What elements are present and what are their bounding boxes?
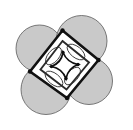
center-dot-right-icon — [76, 63, 79, 66]
geometric-figure-svg — [0, 0, 133, 130]
figure-canvas — [0, 0, 133, 130]
dot-right-vertex — [96, 58, 100, 62]
center-dot-bottom-icon — [64, 77, 67, 80]
dot-top-vertex — [60, 28, 64, 32]
dot-left-vertex — [28, 69, 32, 73]
center-dot-top-icon — [61, 51, 64, 54]
center-dot-left-icon — [50, 65, 53, 68]
dot-bottom-vertex — [65, 96, 69, 100]
